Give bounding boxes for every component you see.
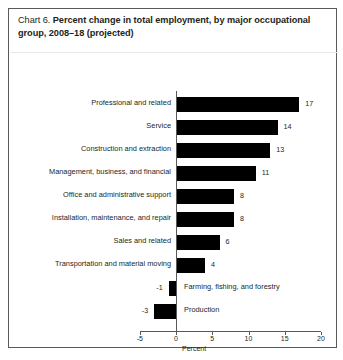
value-label: 17 bbox=[305, 99, 313, 108]
bar bbox=[169, 281, 176, 296]
value-label: 14 bbox=[284, 122, 292, 131]
value-label: 6 bbox=[226, 237, 230, 246]
bar-row: Management, business, and financial11 bbox=[9, 164, 338, 187]
category-label: Management, business, and financial bbox=[49, 167, 171, 176]
bar-row: Transportation and material moving4 bbox=[9, 256, 338, 279]
value-label: 13 bbox=[276, 145, 284, 154]
category-label: Service bbox=[146, 121, 171, 130]
page-edge-artifact bbox=[0, 0, 343, 7]
plot-area: Professional and related17Service14Const… bbox=[9, 9, 338, 349]
x-axis-tick-label: -5 bbox=[130, 335, 150, 343]
category-label: Office and administrative support bbox=[63, 190, 171, 199]
category-label: Farming, fishing, and forestry bbox=[184, 282, 280, 291]
bar-row: Installation, maintenance, and repair8 bbox=[9, 210, 338, 233]
category-label: Transportation and material moving bbox=[55, 259, 171, 268]
bar bbox=[176, 143, 270, 158]
x-axis-tick-label: 10 bbox=[239, 335, 259, 343]
bar bbox=[176, 258, 205, 273]
bar bbox=[176, 235, 220, 250]
bar bbox=[176, 120, 278, 135]
category-label: Sales and related bbox=[113, 236, 171, 245]
x-axis-tick-label: 20 bbox=[311, 335, 331, 343]
chart-figure-frame: Chart 6. Percent change in total employm… bbox=[8, 8, 337, 348]
x-axis-tick-label: 5 bbox=[202, 335, 222, 343]
value-label: 8 bbox=[240, 191, 244, 200]
bar-row: -3Production bbox=[9, 302, 338, 325]
bar bbox=[176, 166, 256, 181]
bar-row: -1Farming, fishing, and forestry bbox=[9, 279, 338, 302]
bar bbox=[176, 189, 234, 204]
category-label: Construction and extraction bbox=[81, 144, 171, 153]
x-axis-tick-label: 15 bbox=[275, 335, 295, 343]
category-label: Installation, maintenance, and repair bbox=[52, 213, 171, 222]
value-label: -1 bbox=[151, 283, 163, 292]
bar-row: Sales and related6 bbox=[9, 233, 338, 256]
value-label: 8 bbox=[240, 214, 244, 223]
bar-row: Service14 bbox=[9, 118, 338, 141]
bar-row: Construction and extraction13 bbox=[9, 141, 338, 164]
value-label: 11 bbox=[262, 168, 269, 177]
bar bbox=[176, 212, 234, 227]
zero-axis-line bbox=[176, 91, 177, 331]
bar bbox=[176, 97, 299, 112]
value-label: -3 bbox=[136, 306, 148, 315]
category-label: Production bbox=[184, 305, 219, 314]
x-axis-line bbox=[140, 331, 321, 332]
bar-row: Professional and related17 bbox=[9, 95, 338, 118]
value-label: 4 bbox=[211, 260, 215, 269]
bar bbox=[154, 304, 176, 319]
x-axis-title: Percent bbox=[182, 345, 206, 353]
x-axis-tick-label: 0 bbox=[166, 335, 186, 343]
category-label: Professional and related bbox=[91, 98, 171, 107]
bar-row: Office and administrative support8 bbox=[9, 187, 338, 210]
